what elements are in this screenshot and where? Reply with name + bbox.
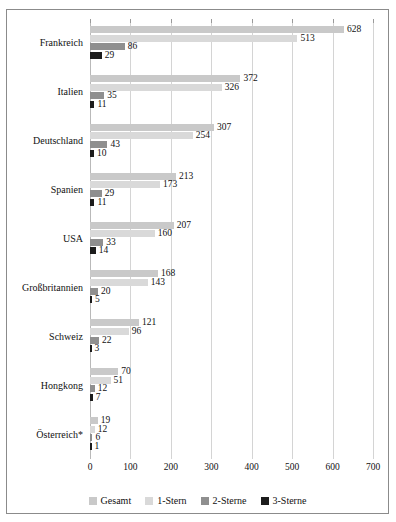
bar-value-label: 11	[97, 198, 106, 208]
bar-value-label: 254	[196, 131, 210, 141]
bar-value-label: 143	[151, 278, 165, 288]
bar	[90, 101, 94, 108]
legend-label: 3-Sterne	[273, 496, 307, 506]
tick-mark-600	[333, 19, 334, 23]
bar-value-label: 372	[243, 74, 257, 84]
legend-swatch-icon	[261, 497, 269, 505]
category-axis-labels: FrankreichItalienDeutschlandSpanienUSAGr…	[7, 19, 83, 459]
bar	[90, 190, 102, 197]
chart-legend: Gesamt1-Stern2-Sterne3-Sterne	[7, 491, 388, 511]
plot-area: 6285138629372326351130725443102131732911…	[90, 19, 373, 459]
bar	[90, 296, 92, 303]
x-tick-label: 700	[366, 462, 380, 472]
bar-group: 6285138629	[90, 26, 373, 59]
bar-value-label: 5	[95, 295, 100, 305]
bar	[90, 328, 129, 335]
bar-group: 191261	[90, 417, 373, 450]
bar-value-label: 35	[107, 91, 117, 101]
tick-mark-400	[252, 19, 253, 23]
bar-value-label: 10	[97, 149, 107, 159]
bar	[90, 270, 158, 277]
x-tick-label: 600	[325, 462, 339, 472]
bar-group: 2131732911	[90, 173, 373, 206]
legend-swatch-icon	[201, 497, 209, 505]
category-label: Spanien	[51, 184, 83, 195]
bar	[90, 35, 297, 42]
bar	[90, 247, 96, 254]
legend-item[interactable]: Gesamt	[89, 496, 132, 506]
bar-value-label: 51	[114, 376, 124, 386]
bar	[90, 230, 155, 237]
x-tick-label: 500	[285, 462, 299, 472]
x-axis-tick-labels: 0100200300400500600700	[90, 459, 373, 477]
legend-swatch-icon	[89, 497, 97, 505]
bar-value-label: 207	[177, 221, 191, 231]
legend-label: 1-Stern	[157, 496, 186, 506]
bar	[90, 434, 92, 441]
legend-item[interactable]: 2-Sterne	[201, 496, 247, 506]
chart-frame: FrankreichItalienDeutschlandSpanienUSAGr…	[6, 9, 389, 514]
category-label: Deutschland	[33, 135, 83, 146]
bar-value-label: 20	[101, 287, 111, 297]
bar-group: 12196223	[90, 319, 373, 352]
bar	[90, 75, 240, 82]
category-label: USA	[63, 233, 83, 244]
bar-value-label: 160	[158, 229, 172, 239]
bar	[90, 181, 160, 188]
tick-mark-200	[171, 19, 172, 23]
tick-mark-700	[373, 19, 374, 23]
bar-value-label: 22	[102, 336, 112, 346]
category-label: Italien	[57, 86, 83, 97]
legend-item[interactable]: 3-Sterne	[261, 496, 307, 506]
bar	[90, 443, 92, 450]
legend-swatch-icon	[145, 497, 153, 505]
bar-value-label: 43	[110, 140, 120, 150]
bar-group: 3723263511	[90, 75, 373, 108]
bar	[90, 345, 92, 352]
bar-group: 3072544310	[90, 124, 373, 157]
bar	[90, 426, 95, 433]
bar-value-label: 7	[96, 393, 101, 403]
category-label: Österreich*	[36, 429, 83, 440]
bar-value-label: 213	[179, 172, 193, 182]
category-label: Schweiz	[49, 331, 83, 342]
tick-mark-300	[211, 19, 212, 23]
chart-plot-wrapper: FrankreichItalienDeutschlandSpanienUSAGr…	[7, 10, 388, 513]
bar	[90, 132, 193, 139]
category-label: Großbritannien	[22, 282, 83, 293]
bar	[90, 417, 98, 424]
x-tick-label: 0	[88, 462, 93, 472]
bar-value-label: 121	[142, 318, 156, 328]
x-tick-label: 300	[204, 462, 218, 472]
category-label: Frankreich	[40, 37, 83, 48]
bar-group: 7051127	[90, 368, 373, 401]
bar-value-label: 628	[347, 25, 361, 35]
category-label: Hongkong	[41, 380, 83, 391]
bar-value-label: 513	[300, 34, 314, 44]
bar-value-label: 11	[97, 100, 106, 110]
tick-mark-0	[90, 19, 91, 23]
x-tick-label: 100	[123, 462, 137, 472]
x-tick-label: 200	[164, 462, 178, 472]
bar	[90, 385, 95, 392]
bar	[90, 52, 102, 59]
bar	[90, 279, 148, 286]
legend-label: 2-Sterne	[213, 496, 247, 506]
bar-value-label: 173	[163, 180, 177, 190]
bar	[90, 26, 344, 33]
bar-value-label: 1	[95, 442, 100, 452]
bar-value-label: 326	[225, 83, 239, 93]
legend-item[interactable]: 1-Stern	[145, 496, 186, 506]
legend-label: Gesamt	[101, 496, 132, 506]
gridline-700	[373, 19, 374, 459]
tick-mark-500	[292, 19, 293, 23]
bar-value-label: 29	[105, 51, 115, 61]
bar-value-label: 86	[128, 42, 138, 52]
bar	[90, 141, 107, 148]
bar	[90, 199, 94, 206]
tick-mark-100	[130, 19, 131, 23]
bar-value-label: 307	[217, 123, 231, 133]
bar-group: 2071603314	[90, 222, 373, 255]
bar-value-label: 96	[132, 327, 142, 337]
bar-value-label: 14	[99, 246, 109, 256]
